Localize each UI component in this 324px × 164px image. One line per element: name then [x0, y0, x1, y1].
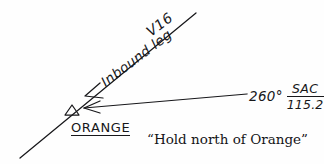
navaid-identifier-block: SAC 115.2 — [287, 82, 324, 112]
hold-caption: “Hold north of Orange” — [147, 131, 308, 147]
radial-annotation: 260° SAC 115.2 — [249, 82, 324, 112]
radial-260-line — [84, 94, 247, 108]
radial-bearing-label: 260° — [249, 90, 283, 104]
fix-name-text: ORANGE — [71, 121, 130, 136]
fix-name-label: ORANGE — [71, 121, 130, 136]
hold-diagram: V16 Inbound leg ORANGE 260° SAC 115.2 “H… — [0, 0, 324, 164]
fix-marker-group — [65, 105, 79, 115]
navaid-ident-label: SAC — [291, 82, 319, 96]
radial-line-group — [84, 94, 247, 113]
inbound-arrowhead-icon — [85, 83, 103, 98]
triangle-fix-marker-icon — [65, 105, 79, 115]
navaid-frequency-label: 115.2 — [287, 97, 324, 111]
